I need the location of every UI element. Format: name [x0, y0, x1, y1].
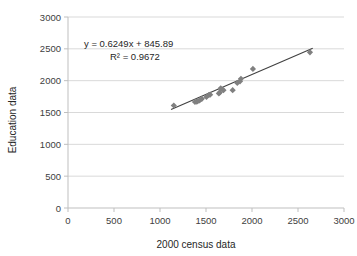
x-tick-label: 1000 — [149, 215, 170, 226]
x-tick-label: 2000 — [241, 215, 262, 226]
r-squared-label: R² = 0.9672 — [110, 51, 160, 62]
x-tick-label: 1500 — [195, 215, 216, 226]
y-tick-label: 2000 — [40, 75, 61, 86]
scatter-chart: 050010001500200025003000 050010001500200… — [0, 0, 357, 256]
chart-canvas: 050010001500200025003000 050010001500200… — [0, 0, 357, 256]
y-tick-label: 1000 — [40, 139, 61, 150]
trendline-equation-label: y = 0.6249x + 845.89 — [84, 38, 173, 49]
data-point-marker — [250, 66, 256, 72]
y-tick-label: 1500 — [40, 107, 61, 118]
y-tick-label: 2500 — [40, 43, 61, 54]
data-points — [171, 49, 313, 108]
y-tick-label: 500 — [45, 171, 61, 182]
y-axis-tick-labels: 050010001500200025003000 — [40, 12, 61, 214]
x-tick-label: 2500 — [287, 215, 308, 226]
x-tick-label: 500 — [106, 215, 122, 226]
data-point-marker — [230, 87, 236, 93]
x-axis-title: 2000 census data — [157, 239, 236, 250]
y-tick-label: 3000 — [40, 12, 61, 23]
y-tick-label: 0 — [56, 203, 61, 214]
x-tick-label: 3000 — [333, 215, 354, 226]
x-tick-label: 0 — [65, 215, 70, 226]
y-axis-title: Education data — [7, 86, 18, 153]
x-axis-tick-labels: 050010001500200025003000 — [65, 215, 354, 226]
